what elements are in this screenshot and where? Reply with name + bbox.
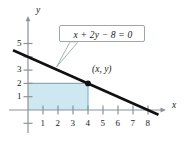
- y-tick-label-1: 1: [17, 92, 22, 101]
- x-tick-label-3: 3: [71, 119, 76, 128]
- line-graph-figure: x + 2y − 8 = 0 (x, y) y x 5 3 2 1 1 2 3 …: [0, 0, 184, 142]
- x-tick-label-7: 7: [131, 119, 136, 128]
- x-axis-arrowhead: [161, 108, 167, 113]
- point-coordinate-label: (x, y): [92, 65, 112, 75]
- y-tick-label-5: 5: [17, 39, 22, 48]
- x-tick-label-8: 8: [146, 119, 151, 128]
- x-tick-label-4: 4: [86, 119, 91, 128]
- y-axis-label: y: [36, 6, 40, 16]
- equation-callout-label: x + 2y − 8 = 0: [60, 26, 146, 43]
- equation-callout: x + 2y − 8 = 0: [59, 25, 145, 42]
- x-tick-label-6: 6: [116, 119, 121, 128]
- x-tick-label-2: 2: [56, 119, 61, 128]
- x-tick-label-5: 5: [101, 119, 106, 128]
- y-tick-label-2: 2: [17, 79, 22, 88]
- x-tick-label-1: 1: [41, 119, 46, 128]
- x-axis-label: x: [172, 101, 176, 111]
- y-tick-label-3: 3: [17, 65, 22, 74]
- callout-tail: [57, 42, 79, 67]
- point-marker: [85, 81, 91, 87]
- y-axis-arrowhead: [26, 16, 31, 21]
